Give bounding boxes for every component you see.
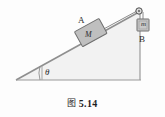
figure-caption-number: 5.14 — [79, 98, 98, 109]
figure-container: A M B m θ 图5.14 — [0, 0, 165, 117]
figure-caption-marker: 图 — [67, 96, 78, 109]
block-a-label: A — [78, 16, 85, 25]
block-a-mass-label: M — [85, 31, 92, 39]
figure-caption: 图5.14 — [0, 96, 165, 109]
incline-angle-label: θ — [45, 68, 49, 77]
pulley-axle-icon — [138, 10, 140, 12]
hanging-mass-label: B — [139, 35, 145, 44]
hanging-mass-symbol-label: m — [141, 21, 146, 28]
